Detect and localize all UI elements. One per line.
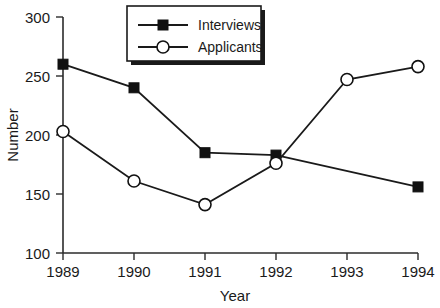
series-line-applicants xyxy=(63,67,418,205)
x-tick-label-1991: 1991 xyxy=(188,263,221,280)
data-point-applicants-1989 xyxy=(57,126,69,138)
chart-legend: Interviews Applicants xyxy=(127,6,265,65)
y-tick-label-300: 300 xyxy=(25,9,50,26)
y-tick-label-150: 150 xyxy=(25,186,50,203)
data-point-applicants-1992 xyxy=(270,157,282,169)
data-point-applicants-1991 xyxy=(199,199,211,211)
y-tick-label-100: 100 xyxy=(25,245,50,262)
x-tick-label-1994: 1994 xyxy=(401,263,434,280)
x-axis-title: Year xyxy=(220,287,250,304)
legend-applicants-marker-icon xyxy=(157,41,169,53)
x-axis-ticks xyxy=(63,253,418,260)
data-point-applicants-1990 xyxy=(128,175,140,187)
y-tick-label-250: 250 xyxy=(25,68,50,85)
x-tick-label-1992: 1992 xyxy=(259,263,292,280)
x-tick-label-1990: 1990 xyxy=(117,263,150,280)
data-point-interviews-1994 xyxy=(413,182,423,192)
line-chart-canvas: 300 250 200 150 100 1989 1990 1991 1992 … xyxy=(0,0,440,308)
y-axis-title: Number xyxy=(4,108,21,161)
legend-interviews-marker-icon xyxy=(158,20,168,30)
series-layer xyxy=(57,59,424,210)
data-point-applicants-1994 xyxy=(412,61,424,73)
y-tick-label-200: 200 xyxy=(25,127,50,144)
data-point-interviews-1989 xyxy=(58,59,68,69)
legend-label-interviews: Interviews xyxy=(198,17,261,33)
legend-label-applicants: Applicants xyxy=(198,39,263,55)
data-point-interviews-1991 xyxy=(200,148,210,158)
data-point-applicants-1993 xyxy=(341,74,353,86)
chart-figure: 300 250 200 150 100 1989 1990 1991 1992 … xyxy=(0,0,440,308)
x-tick-label-1993: 1993 xyxy=(330,263,363,280)
x-tick-label-1989: 1989 xyxy=(46,263,79,280)
data-point-interviews-1990 xyxy=(129,83,139,93)
